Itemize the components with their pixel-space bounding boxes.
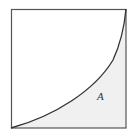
diagram: A: [0, 0, 135, 138]
shaded-region-a: [11, 9, 126, 128]
region-label: A: [96, 90, 104, 102]
